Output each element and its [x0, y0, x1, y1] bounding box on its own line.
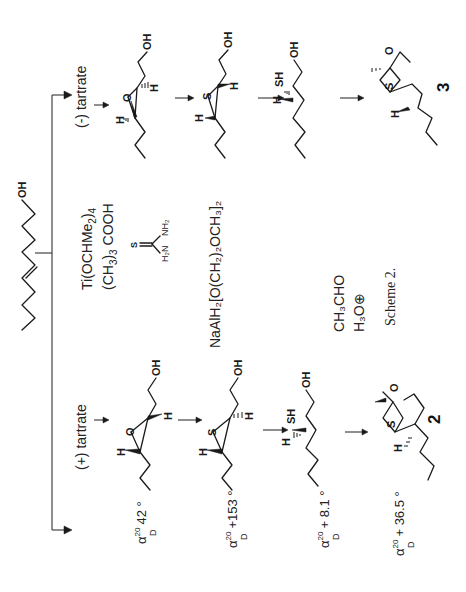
svg-text:H: H — [148, 84, 160, 92]
svg-text:S: S — [383, 83, 395, 90]
svg-text:H: H — [389, 110, 401, 118]
svg-text:H: H — [392, 444, 404, 452]
svg-text:OH: OH — [232, 359, 244, 376]
svg-text:D: D — [148, 529, 158, 536]
compound-3-label: 3 — [434, 83, 453, 92]
red-al-reagent: NaAlH₂[O(CH₂)₂OCH₃]₂ — [207, 201, 223, 348]
rotation-thiirane: α20+153 ° D — [224, 490, 249, 548]
svg-text:S: S — [201, 93, 213, 100]
minus-thiirane: S H H OH — [193, 31, 240, 158]
svg-text:S: S — [385, 421, 397, 428]
svg-text:D: D — [331, 533, 341, 540]
tbhp-reagent: (CH3)3 COOH — [100, 203, 119, 290]
svg-text:α20+153 °: α20+153 ° — [224, 490, 240, 548]
svg-text:SH: SH — [285, 409, 297, 424]
svg-text:H: H — [271, 96, 283, 104]
arrow-head-minus — [64, 91, 72, 99]
svg-text:H: H — [115, 448, 127, 456]
starting-material-hexenol: OH — [16, 181, 37, 330]
plus-tartrate-label: (+) tartrate — [73, 404, 89, 470]
svg-text:H₂N: H₂N — [160, 246, 170, 263]
svg-text:α2042 °: α2042 ° — [133, 501, 149, 544]
rotation-thiol: α20+ 8.1 ° D — [316, 490, 341, 548]
compound-2-label: 2 — [425, 415, 444, 424]
svg-text:OH: OH — [141, 33, 153, 50]
svg-text:H: H — [197, 448, 209, 456]
rotation-epoxide: α2042 ° D — [133, 501, 158, 544]
svg-text:H₃O⊕: H₃O⊕ — [351, 293, 367, 332]
svg-text:OH: OH — [288, 41, 300, 58]
reagents-step4: CH₃CHO H₃O⊕ — [331, 275, 367, 332]
reagents-step1: Ti(OCHMe2)4 (CH3)3 COOH — [79, 203, 119, 290]
minus-tartrate-label: (-) tartrate — [73, 66, 89, 128]
svg-text:H: H — [280, 438, 292, 446]
plus-epoxide: O H H OH — [115, 359, 174, 490]
svg-text:SH: SH — [273, 72, 285, 87]
reaction-scheme: OH (-) tartrate (+) tartrate Ti(OCHMe2)4… — [0, 0, 466, 592]
rotation-oxathiane: α20+ 36.5 ° D — [391, 491, 416, 556]
svg-text:D: D — [239, 533, 249, 540]
plus-oxathiane: O S H — [375, 383, 434, 480]
titanium-reagent: Ti(OCHMe2)4 — [79, 207, 98, 290]
svg-text:NH₂: NH₂ — [160, 219, 170, 236]
svg-text:H: H — [193, 114, 205, 122]
svg-text:H: H — [243, 412, 255, 420]
svg-text:H: H — [162, 412, 174, 420]
svg-text:O: O — [121, 93, 133, 102]
minus-thiol: H SH OH — [271, 41, 305, 158]
arrow-head-plus — [64, 526, 72, 534]
svg-text:α20+ 8.1 °: α20+ 8.1 ° — [316, 490, 332, 548]
svg-text:CH₃CHO: CH₃CHO — [331, 275, 347, 332]
svg-text:H: H — [114, 116, 126, 124]
svg-text:S: S — [206, 429, 218, 436]
svg-text:α20+ 36.5 °: α20+ 36.5 ° — [391, 491, 407, 556]
plus-thiirane: S H H OH — [197, 359, 255, 490]
svg-text:O: O — [388, 383, 400, 392]
minus-oxathiane: O S H — [372, 46, 437, 145]
scheme-page: OH (-) tartrate (+) tartrate Ti(OCHMe2)4… — [0, 0, 466, 592]
svg-text:OH: OH — [300, 371, 312, 388]
svg-text:OH: OH — [150, 359, 162, 376]
svg-text:D: D — [406, 541, 416, 548]
minus-epoxide: O H H OH — [114, 33, 160, 158]
thiourea-structure: S H₂N NH₂ — [129, 219, 170, 262]
tartrate-arrows — [94, 102, 109, 423]
svg-text:O: O — [383, 46, 395, 55]
svg-text:O: O — [124, 427, 136, 436]
svg-text:H: H — [228, 82, 240, 90]
svg-text:OH: OH — [222, 31, 234, 48]
branch-lines — [35, 91, 72, 534]
scheme-caption: Scheme 2. — [383, 268, 398, 326]
svg-text:S: S — [129, 242, 139, 248]
starting-oh-label: OH — [16, 181, 28, 198]
